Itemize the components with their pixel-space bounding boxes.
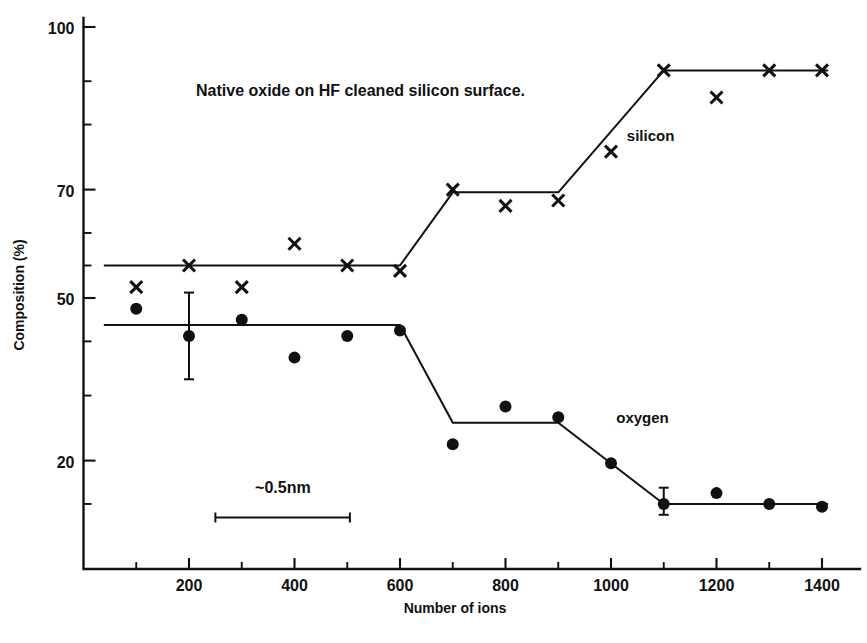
trend-lines xyxy=(105,70,828,504)
chart-title: Native oxide on HF cleaned silicon surfa… xyxy=(196,82,525,99)
x-axis-label: Number of ions xyxy=(404,600,507,616)
data-point-silicon xyxy=(289,238,301,250)
scale-bar-annotation: ~0.5nm xyxy=(215,479,350,522)
composition-vs-ions-plot: 200400600800100012001400 100705020 silic… xyxy=(0,0,867,643)
x-tick-label: 1000 xyxy=(593,577,629,594)
data-point-oxygen xyxy=(605,457,617,469)
x-tick-label: 600 xyxy=(387,577,414,594)
series-label-silicon: silicon xyxy=(627,127,675,144)
x-tick-label: 800 xyxy=(492,577,519,594)
data-point-oxygen xyxy=(394,325,406,337)
data-point-silicon xyxy=(130,281,142,293)
data-point-silicon xyxy=(605,146,617,158)
x-tick-label: 1400 xyxy=(804,577,840,594)
x-tick-label: 1200 xyxy=(699,577,735,594)
trend-line-oxygen xyxy=(105,325,828,504)
data-point-oxygen xyxy=(289,352,301,364)
x-axis-ticks xyxy=(136,558,822,569)
chart-canvas: 200400600800100012001400 100705020 silic… xyxy=(0,0,867,643)
y-tick-label: 70 xyxy=(57,183,75,200)
data-point-oxygen xyxy=(552,411,564,423)
scale-bar-label: ~0.5nm xyxy=(255,479,311,496)
data-point-oxygen xyxy=(236,314,248,326)
y-tick-label: 50 xyxy=(57,291,75,308)
data-point-oxygen xyxy=(447,438,459,450)
y-tick-label: 20 xyxy=(57,454,75,471)
data-markers xyxy=(130,64,828,512)
x-tick-label: 400 xyxy=(281,577,308,594)
data-point-oxygen xyxy=(711,487,723,499)
data-point-oxygen xyxy=(341,330,353,342)
data-point-oxygen xyxy=(130,303,142,315)
y-axis-tick-labels: 100705020 xyxy=(48,20,75,471)
x-tick-label: 200 xyxy=(176,577,203,594)
data-point-silicon xyxy=(711,91,723,103)
y-tick-label: 100 xyxy=(48,20,75,37)
data-point-silicon xyxy=(394,265,406,277)
data-point-silicon xyxy=(552,194,564,206)
data-point-oxygen xyxy=(183,330,195,342)
data-point-oxygen xyxy=(658,498,670,510)
data-point-silicon xyxy=(236,281,248,293)
y-axis-label: Composition (%) xyxy=(11,239,27,350)
x-axis-tick-labels: 200400600800100012001400 xyxy=(176,577,840,594)
series-label-oxygen: oxygen xyxy=(616,409,669,426)
data-point-oxygen xyxy=(500,400,512,412)
axis-spine xyxy=(84,18,861,569)
y-axis-ticks xyxy=(84,27,96,504)
data-point-oxygen xyxy=(763,498,775,510)
data-point-silicon xyxy=(500,200,512,212)
plot-axes xyxy=(84,18,861,569)
data-point-oxygen xyxy=(816,501,828,513)
